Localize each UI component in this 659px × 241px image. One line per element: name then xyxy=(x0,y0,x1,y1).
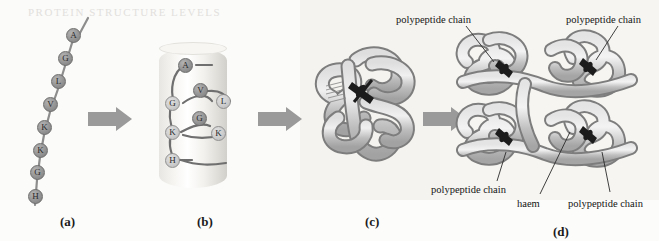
callout-polypeptide-chain-bottom-left-text: polypeptide chain xyxy=(431,184,506,195)
callout-polypeptide-chain-top-right-text: polypeptide chain xyxy=(566,14,641,25)
callout-polypeptide-chain-bottom-left-line xyxy=(497,152,506,181)
callout-haem-text: haem xyxy=(517,198,540,209)
callout-polypeptide-chain-top-right-line xyxy=(596,26,618,60)
figure-protein-structure-levels: PROTEIN STRUCTURE LEVELS AGLVKKGH AVLGGK… xyxy=(0,0,659,241)
callout-haem-line xyxy=(540,132,570,194)
panel-label-b: (b) xyxy=(197,214,213,230)
panel-label-d: (d) xyxy=(553,224,569,240)
callout-polypeptide-chain-top-left-line xyxy=(466,26,494,62)
callout-polypeptide-chain-bottom-right-text: polypeptide chain xyxy=(568,198,643,209)
callout-polypeptide-chain-bottom-right-line xyxy=(602,152,610,192)
panel-label-a: (a) xyxy=(60,214,75,230)
callout-polypeptide-chain-top-left-text: polypeptide chain xyxy=(396,14,471,25)
panel-label-c: (c) xyxy=(365,214,379,230)
callout-leader-lines xyxy=(0,0,659,241)
